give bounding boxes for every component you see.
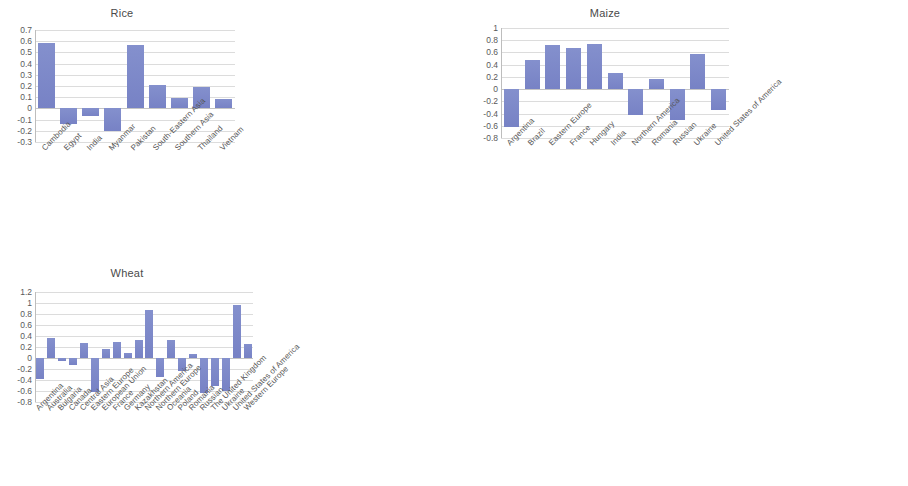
bar — [127, 45, 144, 109]
bar — [545, 45, 560, 90]
bar — [211, 358, 219, 386]
gridline — [501, 101, 729, 102]
gridline — [35, 336, 253, 337]
bar — [124, 353, 132, 358]
bar — [525, 60, 540, 89]
y-tick-label: 0.3 — [20, 70, 32, 79]
y-tick-label: 1.2 — [20, 288, 32, 297]
y-tick-label: 0.7 — [20, 26, 32, 35]
gridline — [35, 30, 235, 31]
gridline — [35, 41, 235, 42]
y-tick-label: 0.5 — [20, 48, 32, 57]
y-tick-label: -0.6 — [483, 121, 498, 130]
y-tick-label: 0.6 — [20, 37, 32, 46]
bar — [58, 358, 66, 361]
bar — [587, 44, 602, 89]
gridline — [501, 114, 729, 115]
y-tick-label: 0.2 — [20, 343, 32, 352]
bar — [690, 54, 705, 89]
y-tick-label: -0.8 — [483, 134, 498, 143]
bar — [215, 99, 232, 108]
bar — [167, 340, 175, 358]
y-tick-label: 0.2 — [486, 72, 498, 81]
y-axis-line — [35, 30, 36, 142]
bar — [171, 98, 188, 108]
y-tick-label: -0.6 — [17, 387, 32, 396]
bar — [149, 85, 166, 109]
y-tick-label: -0.8 — [17, 398, 32, 407]
bar — [104, 108, 121, 130]
gridline — [35, 292, 253, 293]
y-axis-line — [501, 28, 502, 138]
y-tick-label: -0.2 — [17, 365, 32, 374]
y-tick-label: 0 — [27, 104, 32, 113]
bar — [135, 340, 143, 358]
y-tick-label: -0.2 — [483, 97, 498, 106]
bar — [36, 358, 44, 379]
bar — [608, 73, 623, 90]
bar — [38, 43, 55, 108]
gridline — [501, 89, 729, 90]
bar — [189, 354, 197, 358]
y-tick-label: 0.4 — [20, 59, 32, 68]
gridline — [35, 314, 253, 315]
y-tick-label: -0.1 — [17, 115, 32, 124]
y-tick-label: -0.4 — [17, 376, 32, 385]
bar — [244, 344, 252, 358]
y-tick-label: 1 — [27, 299, 32, 308]
y-tick-label: 0.1 — [20, 93, 32, 102]
bar — [102, 349, 110, 358]
y-tick-label: 0.4 — [20, 332, 32, 341]
gridline — [35, 358, 253, 359]
bar — [233, 305, 241, 358]
y-tick-label: 0.8 — [486, 36, 498, 45]
y-tick-label: 0.6 — [486, 48, 498, 57]
y-tick-label: 0 — [27, 354, 32, 363]
bar — [80, 343, 88, 358]
bar — [69, 358, 77, 365]
gridline — [35, 303, 253, 304]
bar — [145, 310, 153, 358]
y-tick-label: 0.6 — [20, 321, 32, 330]
gridline — [35, 380, 253, 381]
bar — [113, 342, 121, 358]
y-axis-line — [35, 292, 36, 402]
bar — [649, 79, 664, 89]
gridline — [501, 40, 729, 41]
bar — [82, 108, 99, 116]
y-tick-label: 0.2 — [20, 82, 32, 91]
y-tick-label: -0.4 — [483, 109, 498, 118]
bar — [47, 338, 55, 358]
y-tick-label: 0 — [493, 85, 498, 94]
gridline — [35, 325, 253, 326]
bar — [711, 89, 726, 110]
y-tick-label: -0.2 — [17, 126, 32, 135]
gridline — [501, 28, 729, 29]
bar — [628, 89, 643, 115]
bar — [156, 358, 164, 377]
y-tick-label: -0.3 — [17, 138, 32, 147]
gridline — [35, 347, 253, 348]
y-tick-label: 0.4 — [486, 60, 498, 69]
y-tick-label: 1 — [493, 24, 498, 33]
bar — [566, 48, 581, 90]
bar — [504, 89, 519, 127]
y-tick-label: 0.8 — [20, 310, 32, 319]
